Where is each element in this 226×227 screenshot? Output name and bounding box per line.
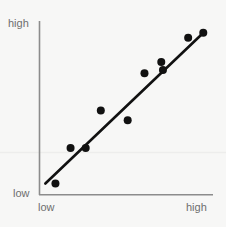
data-point <box>159 66 167 74</box>
data-point <box>124 116 132 124</box>
data-point <box>140 69 148 77</box>
data-point <box>67 144 75 152</box>
x-axis-high-label: high <box>186 201 207 213</box>
scatter-plot-screenshot: .pt { fill: #111111; } high low low high <box>0 0 226 227</box>
data-point <box>82 144 90 152</box>
trend-line <box>45 31 205 183</box>
y-axis-high-label: high <box>8 17 29 29</box>
data-point <box>157 58 165 66</box>
data-point <box>97 107 105 115</box>
y-axis-low-label: low <box>13 187 30 199</box>
scatter-plot-figure: .pt { fill: #111111; } <box>0 0 226 227</box>
x-axis-low-label: low <box>38 201 55 213</box>
data-point <box>199 29 207 37</box>
data-point <box>184 34 192 42</box>
data-point <box>51 180 59 188</box>
